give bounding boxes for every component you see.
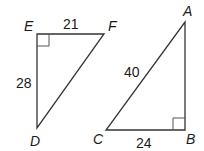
side-label-ac: 40: [124, 64, 140, 80]
right-angle-marker-e: [37, 34, 49, 46]
vertex-label-e: E: [24, 18, 34, 34]
vertex-label-f: F: [108, 18, 118, 34]
similar-triangles-diagram: E F D 21 28 A B C 40 24: [0, 0, 204, 151]
vertex-label-a: A: [182, 3, 192, 19]
side-label-cb: 24: [136, 135, 152, 151]
vertex-label-c: C: [93, 131, 104, 147]
right-angle-marker-b: [173, 118, 185, 130]
vertex-label-d: D: [30, 133, 40, 149]
side-label-ed: 28: [16, 75, 32, 91]
vertex-label-b: B: [186, 131, 195, 147]
triangle-abc-outline: [106, 22, 185, 130]
triangle-def-outline: [37, 34, 104, 128]
triangle-def: E F D 21 28: [16, 16, 118, 149]
side-label-ef: 21: [63, 16, 79, 32]
